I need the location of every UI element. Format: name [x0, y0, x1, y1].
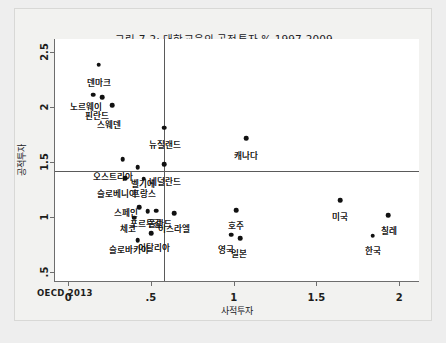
data-point[interactable]: [100, 95, 105, 100]
x-axis-tick: [68, 281, 69, 286]
data-point[interactable]: [338, 198, 343, 203]
y-axis-tick: [50, 162, 55, 163]
x-axis-tick-label: 1: [230, 292, 237, 303]
data-point-label: 캐나다: [234, 152, 258, 161]
data-point[interactable]: [132, 215, 137, 220]
y-axis-tick-label: 1.5: [39, 153, 50, 171]
x-axis-tick-label: 1.5: [308, 292, 326, 303]
y-axis-tick: [50, 217, 55, 218]
data-point[interactable]: [370, 234, 375, 239]
data-point[interactable]: [162, 125, 167, 130]
data-point[interactable]: [386, 213, 391, 218]
data-point[interactable]: [244, 136, 249, 141]
data-point-label: 칠레: [381, 227, 397, 236]
x-axis-tick-label: .5: [146, 292, 157, 303]
data-point[interactable]: [234, 208, 239, 213]
x-axis-tick: [151, 281, 152, 286]
data-point[interactable]: [238, 236, 243, 241]
data-point[interactable]: [229, 233, 234, 238]
data-point[interactable]: [162, 162, 167, 167]
y-axis-tick-label: .5: [39, 267, 50, 278]
data-point-label: 스웨덴: [97, 121, 121, 130]
data-point-label: 호주: [228, 222, 244, 231]
y-axis-tick-label: 2.5: [39, 43, 50, 61]
data-point[interactable]: [149, 231, 154, 236]
data-point[interactable]: [135, 238, 140, 243]
x-axis-label: 사적투자: [221, 304, 253, 317]
x-axis-tick: [316, 281, 317, 286]
data-point[interactable]: [141, 176, 146, 181]
y-axis-label: 공적투자: [15, 144, 28, 176]
data-point-label: 뉴질랜드: [149, 141, 181, 150]
data-point[interactable]: [91, 92, 96, 97]
data-point[interactable]: [154, 208, 159, 213]
y-axis-tick: [50, 52, 55, 53]
plot-frame: 덴마크노르웨이핀란드스웨덴뉴질랜드캐나다네덜란드오스트리아벨기에슬로베니아프랑스…: [54, 39, 419, 282]
data-point-label: 이스라엘: [158, 225, 190, 234]
data-point-label: 벨기에: [131, 180, 155, 189]
data-point-label: 한국: [365, 247, 381, 256]
y-axis-tick-label: 1: [39, 214, 50, 221]
y-axis-tick-label: 2: [39, 104, 50, 111]
plot-area: 덴마크노르웨이핀란드스웨덴뉴질랜드캐나다네덜란드오스트리아벨기에슬로베니아프랑스…: [55, 39, 419, 281]
scanned-page: 그림 7-2: 대학교육의 공적투자 % 1997-2009 덴마크노르웨이핀란…: [14, 8, 432, 321]
data-point-label: 체코: [120, 225, 136, 234]
data-point-label: 덴마크: [87, 79, 111, 88]
data-point[interactable]: [110, 103, 115, 108]
source-note: OECD 2013: [37, 288, 93, 298]
data-point-label: 핀란드: [85, 112, 109, 121]
data-point-label: 미국: [332, 213, 348, 222]
figure-container: 그림 7-2: 대학교육의 공적투자 % 1997-2009 덴마크노르웨이핀란…: [0, 0, 446, 343]
data-point[interactable]: [172, 211, 177, 216]
x-axis-tick-label: 2: [396, 292, 403, 303]
x-axis-tick: [234, 281, 235, 286]
data-point[interactable]: [135, 165, 140, 170]
data-point[interactable]: [123, 176, 128, 181]
data-point-label: 일본: [231, 250, 247, 259]
data-point-label: 슬로바키아: [109, 246, 149, 255]
x-axis-tick: [399, 281, 400, 286]
data-point[interactable]: [145, 209, 150, 214]
y-axis-tick: [50, 107, 55, 108]
y-axis-tick: [50, 272, 55, 273]
data-point[interactable]: [97, 63, 102, 68]
data-point[interactable]: [121, 157, 126, 162]
data-point-label: 프랑스: [132, 190, 156, 199]
